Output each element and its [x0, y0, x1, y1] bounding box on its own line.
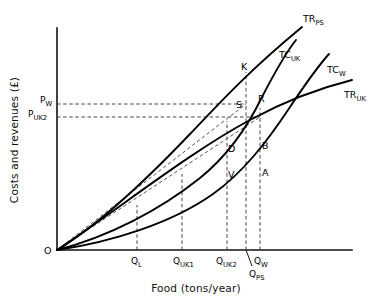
x-axis-title: Food (tons/year): [151, 282, 241, 294]
price-tick-labels: PW PUK2: [28, 95, 52, 122]
ray-to-s: [57, 104, 246, 250]
tick-label-ql: QL: [131, 256, 142, 269]
point-label-v: V: [228, 169, 235, 180]
tick-label-qps: QPS: [249, 269, 265, 282]
point-label-b: B: [262, 140, 269, 151]
curve-tr-uk: [57, 80, 352, 250]
qps-leader-line: [246, 250, 252, 266]
point-label-a: A: [262, 167, 269, 178]
axes: [57, 28, 352, 250]
point-label-k: K: [241, 61, 248, 72]
tick-label-puk2: PUK2: [28, 109, 47, 122]
tick-label-quk1: QUK1: [173, 256, 194, 269]
curve-label-tr-uk: TRUK: [343, 89, 366, 103]
economics-diagram: TRPS TCUK TCW TRUK PW PUK2 QL QUK1 QUK2 …: [0, 0, 383, 300]
origin-label: O: [44, 245, 51, 256]
point-label-r: R: [258, 93, 265, 104]
point-label-s: S: [236, 99, 242, 110]
y-axis-title: Costs and revenues (£): [8, 77, 20, 203]
point-label-d: D: [228, 143, 235, 154]
quantity-tick-labels: QL QUK1 QUK2 QW QPS: [131, 256, 268, 282]
curves: [57, 27, 352, 250]
tick-label-quk2: QUK2: [216, 256, 237, 269]
curve-label-tc-w: TCW: [326, 64, 346, 78]
tick-label-pw: PW: [40, 95, 52, 108]
curve-label-tr-ps: TRPS: [302, 13, 324, 27]
curve-tr-ps: [57, 27, 302, 250]
tick-label-qw: QW: [254, 256, 268, 269]
